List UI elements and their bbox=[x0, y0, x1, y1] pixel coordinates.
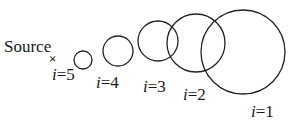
circle-label-5: i=5 bbox=[52, 65, 75, 84]
circle-label-3: i=3 bbox=[143, 77, 166, 96]
source-label: Source bbox=[4, 37, 51, 56]
labels-group: i=5i=4i=3i=2i=1 bbox=[52, 65, 274, 121]
wavefront-circle-4 bbox=[103, 36, 133, 66]
wavefront-circle-2 bbox=[167, 14, 225, 72]
circle-label-4: i=4 bbox=[96, 73, 119, 92]
diagram-svg: Source × i=5i=4i=3i=2i=1 bbox=[0, 0, 293, 123]
circle-label-2: i=2 bbox=[183, 85, 206, 104]
wavefront-circle-5 bbox=[74, 51, 92, 69]
wavefront-diagram: Source × i=5i=4i=3i=2i=1 bbox=[0, 0, 293, 123]
circle-label-1: i=1 bbox=[251, 102, 274, 121]
wavefront-circle-1 bbox=[201, 10, 285, 94]
source-marker-icon: × bbox=[49, 51, 56, 66]
